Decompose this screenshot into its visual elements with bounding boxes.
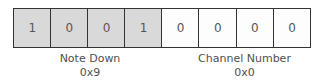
bit-6: 0 [50, 8, 89, 48]
bit-1: 0 [236, 8, 275, 48]
status-byte-bits: 1 0 0 1 0 0 0 0 [13, 8, 311, 48]
channel-number-label: Channel Number 0x0 [167, 52, 322, 80]
bit-7: 1 [13, 8, 52, 48]
bit-3: 0 [161, 8, 200, 48]
channel-number-name: Channel Number [167, 52, 322, 66]
note-down-name: Note Down [13, 52, 167, 66]
bit-2: 0 [198, 8, 237, 48]
bit-5: 0 [87, 8, 126, 48]
note-down-label: Note Down 0x9 [13, 52, 167, 80]
bit-4: 1 [124, 8, 163, 48]
bit-0: 0 [273, 8, 312, 48]
note-down-hex: 0x9 [13, 66, 167, 80]
channel-number-hex: 0x0 [167, 66, 322, 80]
